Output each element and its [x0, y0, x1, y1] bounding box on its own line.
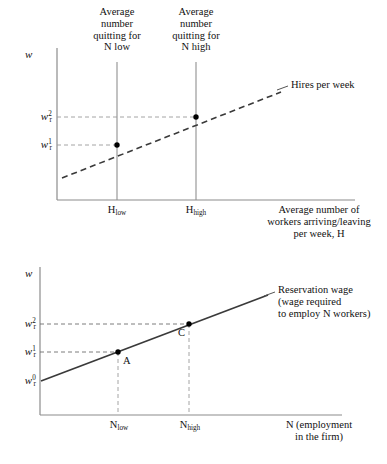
data-point-high [193, 114, 198, 119]
reservation-label-leader [264, 292, 275, 296]
y-tick-label-wr2: w2r [8, 110, 52, 124]
point-label-a: A [123, 355, 131, 367]
x-tick-label-n-low: Nlow [94, 419, 144, 432]
y-tick-label-wr2: w2r [0, 317, 36, 331]
hires-per-week-chart: w Average number quitting for N low Aver… [0, 0, 387, 255]
reservation-wage-chart: w Reservation wage (wage required to emp… [0, 255, 387, 464]
y-tick-label-wr0: w0r [0, 374, 36, 388]
hires-label-leader [277, 86, 288, 90]
bottom-x-axis-title: N (employment in the firm) [251, 419, 387, 443]
data-point-low [114, 142, 119, 147]
top-x-axis-title: Average number of workers arriving/leavi… [251, 204, 387, 239]
hires-per-week-label: Hires per week [291, 79, 387, 91]
x-tick-label-h-high: Hhigh [170, 204, 222, 217]
reservation-wage-curve [41, 295, 268, 381]
x-tick-label-h-low: Hlow [92, 204, 142, 217]
y-tick-label-wr1: w1r [8, 138, 52, 152]
top-y-axis-label: w [25, 48, 32, 60]
point-label-c: C [178, 327, 185, 339]
data-point-c [186, 321, 191, 326]
y-tick-label-wr1: w1r [0, 345, 36, 359]
x-tick-label-n-high: Nhigh [164, 419, 216, 432]
reservation-wage-label: Reservation wage (wage required to emplo… [278, 284, 387, 319]
bottom-y-axis-label: w [25, 267, 32, 279]
hires-per-week-curve [62, 92, 281, 178]
annotation-quitting-n-low: Average number quitting for N low [75, 6, 159, 53]
data-point-a [115, 349, 120, 354]
annotation-quitting-n-high: Average number quitting for N high [154, 6, 238, 53]
